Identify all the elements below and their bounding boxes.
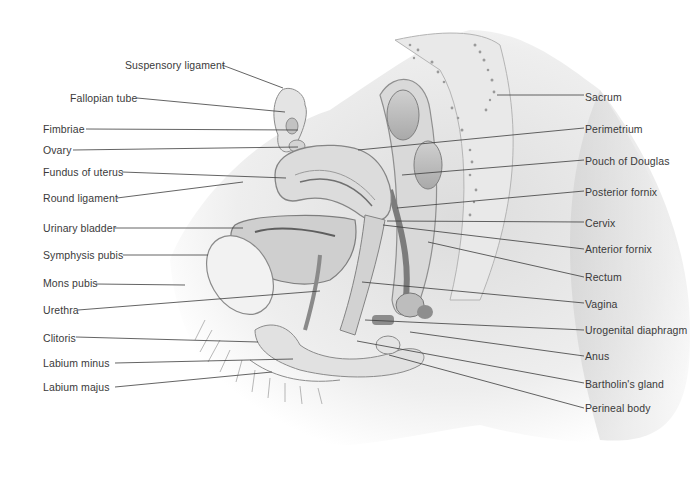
leader-line-suspensory-ligament	[222, 65, 283, 88]
label-rectum: Rectum	[585, 271, 622, 283]
label-ovary: Ovary	[43, 144, 72, 156]
leader-line-fallopian-tube	[137, 98, 285, 112]
label-sacrum: Sacrum	[585, 91, 622, 103]
label-labium-majus: Labium majus	[43, 381, 110, 393]
label-cervix: Cervix	[585, 217, 615, 229]
label-anus: Anus	[585, 350, 609, 362]
label-posterior-fornix: Posterior fornix	[585, 186, 657, 198]
label-fundus-of-uterus: Fundus of uterus	[43, 166, 123, 178]
label-fimbriae: Fimbriae	[43, 123, 85, 135]
label-perimetrium: Perimetrium	[585, 123, 643, 135]
label-fallopian-tube: Fallopian tube	[70, 92, 137, 104]
label-bartholin-s-gland: Bartholin's gland	[585, 378, 664, 390]
label-perineal-body: Perineal body	[585, 402, 651, 414]
anatomy-diagram: Suspensory ligamentFallopian tubeFimbria…	[0, 0, 700, 479]
label-urinary-bladder: Urinary bladder	[43, 222, 116, 234]
label-urogenital-diaphragm: Urogenital diaphragm	[585, 324, 687, 336]
label-round-ligament: Round ligament	[43, 192, 118, 204]
label-vagina: Vagina	[585, 298, 618, 310]
fallopian-tube-ovary	[274, 88, 306, 152]
label-anterior-fornix: Anterior fornix	[585, 243, 652, 255]
leader-line-mons-pubis	[96, 284, 185, 285]
label-symphysis-pubis: Symphysis pubis	[43, 249, 123, 261]
label-clitoris: Clitoris	[43, 332, 76, 344]
label-suspensory-ligament: Suspensory ligament	[125, 59, 225, 71]
label-pouch-of-douglas: Pouch of Douglas	[585, 155, 670, 167]
label-mons-pubis: Mons pubis	[43, 277, 98, 289]
label-labium-minus: Labium minus	[43, 357, 110, 369]
leader-line-fimbriae	[86, 129, 298, 130]
label-urethra: Urethra	[43, 304, 79, 316]
